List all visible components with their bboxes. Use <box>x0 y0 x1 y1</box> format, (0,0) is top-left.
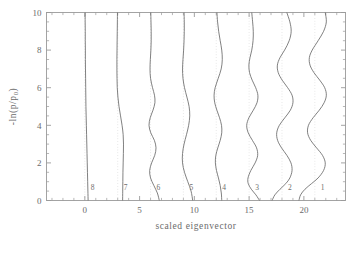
y-tick-label: 10 <box>33 8 43 18</box>
y-tick-label: 8 <box>37 45 42 55</box>
eigenfunction-curve-4 <box>214 13 222 201</box>
curve-label-2: 2 <box>288 183 292 192</box>
eigenvector-plot: 05101520024681087654321scaled eigenvecto… <box>0 0 360 255</box>
eigenfunction-curve-2 <box>272 13 293 201</box>
curve-label-5: 5 <box>189 183 193 192</box>
curve-label-6: 6 <box>157 183 161 192</box>
eigenfunction-curve-5 <box>182 13 192 201</box>
y-tick-label: 6 <box>37 83 42 93</box>
y-tick-label: 2 <box>37 158 42 168</box>
curve-label-8: 8 <box>91 183 95 192</box>
y-axis-title: -ln(p/p0) <box>8 88 19 126</box>
eigenfunction-curve-8 <box>85 13 88 201</box>
y-tick-label: 0 <box>37 196 42 206</box>
eigenfunction-curve-1 <box>299 13 326 201</box>
x-tick-label: 0 <box>83 205 88 215</box>
x-tick-label: 5 <box>137 205 142 215</box>
x-tick-label: 20 <box>299 205 309 215</box>
x-tick-label: 10 <box>190 205 200 215</box>
eigenfunction-curve-3 <box>247 13 260 201</box>
curves-group <box>85 13 326 201</box>
x-axis-title: scaled eigenvector <box>155 221 236 231</box>
figure-container: 05101520024681087654321scaled eigenvecto… <box>0 0 360 255</box>
curve-label-3: 3 <box>255 183 259 192</box>
plot-frame <box>47 13 346 201</box>
curve-label-7: 7 <box>124 183 128 192</box>
curve-label-1: 1 <box>321 183 325 192</box>
y-tick-label: 4 <box>37 121 42 131</box>
x-tick-label: 15 <box>245 205 255 215</box>
curve-label-4: 4 <box>222 183 226 192</box>
